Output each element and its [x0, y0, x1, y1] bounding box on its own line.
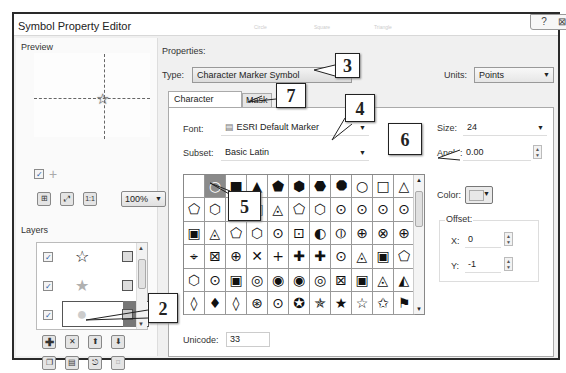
- glyph-cell[interactable]: ✯: [310, 292, 331, 315]
- glyph-cell[interactable]: ⬟: [268, 175, 289, 198]
- glyph-cell[interactable]: ⚑: [394, 292, 415, 315]
- glyph-cell[interactable]: ◎: [310, 269, 331, 292]
- angle-spinner[interactable]: ▲▼: [533, 145, 542, 159]
- glyph-cell[interactable]: ⬠: [394, 245, 415, 268]
- fit-to-window-button[interactable]: ⊞: [37, 192, 51, 206]
- glyph-cell[interactable]: ◎: [247, 269, 268, 292]
- glyph-cell[interactable]: ◐: [310, 222, 331, 245]
- glyph-cell[interactable]: ⬠: [226, 222, 247, 245]
- offset-y-input[interactable]: -1: [465, 257, 501, 273]
- layer-visible-checkbox[interactable]: ✓: [43, 252, 53, 262]
- glyph-cell[interactable]: ▣: [184, 222, 205, 245]
- color-picker-button[interactable]: ▼: [465, 186, 493, 204]
- glyph-cell[interactable]: ✚: [289, 245, 310, 268]
- subset-select[interactable]: Basic Latin ▼: [221, 145, 369, 161]
- glyph-cell[interactable]: ⊠: [205, 245, 226, 268]
- layer-visible-checkbox[interactable]: ✓: [43, 310, 53, 320]
- layer-row[interactable]: ✓ ☆: [37, 243, 137, 271]
- glyph-cell[interactable]: ⊙: [352, 198, 373, 221]
- paste-layer-button[interactable]: ▤: [65, 356, 79, 370]
- glyph-cell[interactable]: ⊙: [331, 245, 352, 268]
- tab-character-marker[interactable]: Character Marker: [168, 91, 242, 107]
- glyph-grid-scrollbar[interactable]: ▲ ▼: [413, 175, 424, 314]
- glyph-cell[interactable]: ⊙: [331, 198, 352, 221]
- glyph-cell[interactable]: ◬: [268, 198, 289, 221]
- layer-row[interactable]: ✓ ★: [37, 272, 137, 300]
- layer-lock-icon[interactable]: [122, 309, 133, 320]
- scroll-up-icon[interactable]: ▲: [138, 245, 144, 251]
- glyph-cell[interactable]: ✩: [373, 292, 394, 315]
- angle-input[interactable]: 0.00: [463, 145, 531, 161]
- glyph-cell[interactable]: ⊕: [352, 222, 373, 245]
- offset-x-input[interactable]: 0: [465, 232, 501, 248]
- glyph-cell[interactable]: ⬡: [310, 198, 331, 221]
- glyph-cell[interactable]: ▣: [226, 269, 247, 292]
- glyph-cell[interactable]: ◉: [289, 269, 310, 292]
- glyph-cell[interactable]: ✚: [310, 245, 331, 268]
- remove-layer-button[interactable]: ✕: [65, 335, 79, 349]
- units-select[interactable]: Points ▼: [474, 67, 554, 83]
- copy-layer-button[interactable]: ❐: [42, 356, 56, 370]
- glyph-cell[interactable]: ◉: [268, 269, 289, 292]
- import-layer-button[interactable]: ⎋: [88, 356, 102, 370]
- scroll-up-icon[interactable]: ▲: [416, 177, 422, 183]
- glyph-grid[interactable]: ○■▲⬟⬢⬣⯃○□△⬠⬡⬡▣◬⬠⬡⊙⊙⊙⊙▣◬⬠⬡⊙⊡◐⦶⊕⊗⊕⌖⊠⊕✕+✚✚⊙…: [183, 174, 425, 315]
- glyph-cell[interactable]: □: [373, 175, 394, 198]
- layer-lock-icon[interactable]: [122, 251, 133, 262]
- glyph-cell[interactable]: ⬠: [184, 198, 205, 221]
- scroll-down-icon[interactable]: ▼: [138, 321, 144, 327]
- close-button[interactable]: ⊠: [557, 14, 566, 30]
- glyph-cell[interactable]: ⯃: [331, 175, 352, 198]
- offset-y-spinner[interactable]: ▲▼: [504, 257, 513, 271]
- layer-visible-checkbox[interactable]: ✓: [43, 281, 53, 291]
- actual-size-button[interactable]: 1:1: [83, 192, 97, 206]
- help-button[interactable]: ?: [530, 14, 558, 30]
- glyph-cell[interactable]: ⬢: [289, 175, 310, 198]
- layer-lock-icon[interactable]: [122, 280, 133, 291]
- glyph-cell[interactable]: ⌖: [184, 245, 205, 268]
- glyph-cell[interactable]: ◬: [373, 269, 394, 292]
- glyph-cell[interactable]: ⊙: [268, 292, 289, 315]
- scroll-thumb[interactable]: [415, 191, 423, 227]
- size-select[interactable]: 24 ▼: [463, 120, 547, 136]
- font-select[interactable]: ▤ ESRI Default Marker ▼: [221, 120, 369, 136]
- offset-x-spinner[interactable]: ▲▼: [504, 232, 513, 246]
- glyph-cell[interactable]: ⬣: [310, 175, 331, 198]
- glyph-cell[interactable]: ⊕: [394, 222, 415, 245]
- tag-layer-button[interactable]: ⌑: [111, 356, 125, 370]
- layers-scrollbar[interactable]: ▲ ▼: [136, 243, 147, 329]
- unicode-input[interactable]: 33: [226, 332, 270, 347]
- glyph-cell[interactable]: ○: [205, 175, 226, 198]
- glyph-cell[interactable]: ⬠: [289, 198, 310, 221]
- glyph-cell[interactable]: ⊙: [394, 198, 415, 221]
- expand-view-button[interactable]: ⤢: [60, 192, 74, 206]
- add-layer-button[interactable]: ✚: [42, 335, 56, 349]
- glyph-cell[interactable]: ◊: [226, 292, 247, 315]
- tab-mask[interactable]: Mask: [242, 93, 272, 107]
- layers-list[interactable]: ✓ ☆ ✓ ★ ✓ ● ▲: [36, 242, 148, 330]
- show-guides-checkbox[interactable]: ✓: [34, 169, 44, 179]
- move-layer-down-button[interactable]: ⬇: [111, 335, 125, 349]
- glyph-cell[interactable]: ◊: [184, 292, 205, 315]
- glyph-cell[interactable]: ⊗: [373, 222, 394, 245]
- glyph-cell[interactable]: ⊙: [205, 269, 226, 292]
- glyph-cell[interactable]: ★: [331, 292, 352, 315]
- glyph-cell[interactable]: ✕: [247, 245, 268, 268]
- glyph-cell[interactable]: ⦶: [331, 222, 352, 245]
- glyph-cell[interactable]: [184, 175, 205, 198]
- layer-row-selected[interactable]: ✓ ●: [37, 301, 137, 329]
- type-select[interactable]: Character Marker Symbol: [192, 67, 352, 83]
- glyph-cell[interactable]: ⊛: [247, 292, 268, 315]
- glyph-cell[interactable]: △: [394, 175, 415, 198]
- glyph-cell[interactable]: ▣: [352, 269, 373, 292]
- glyph-cell[interactable]: ⊙: [268, 222, 289, 245]
- glyph-cell[interactable]: ◭: [394, 269, 415, 292]
- glyph-cell[interactable]: ⬡: [247, 222, 268, 245]
- glyph-cell[interactable]: ⊡: [289, 222, 310, 245]
- glyph-cell[interactable]: ⊙: [373, 198, 394, 221]
- glyph-cell[interactable]: ✪: [289, 292, 310, 315]
- glyph-cell[interactable]: ◬: [352, 245, 373, 268]
- glyph-cell[interactable]: ☆: [352, 292, 373, 315]
- scroll-thumb[interactable]: [138, 259, 146, 289]
- glyph-cell[interactable]: ▣: [373, 245, 394, 268]
